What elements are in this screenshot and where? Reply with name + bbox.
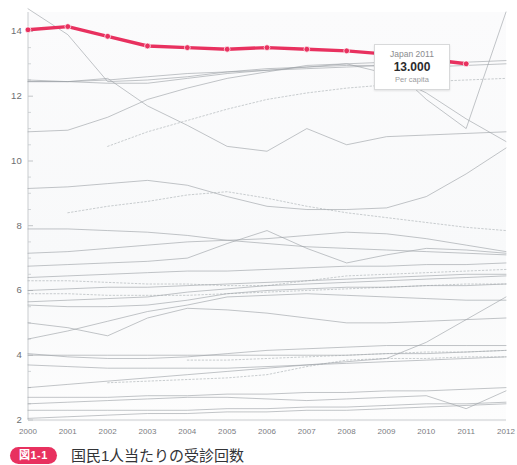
x-tick-label: 2005 <box>212 427 242 436</box>
japan-data-point[interactable] <box>463 61 469 67</box>
series-line <box>108 357 506 383</box>
series-line <box>28 402 506 410</box>
x-tick-label: 2000 <box>13 427 43 436</box>
x-tick-label: 2008 <box>332 427 362 436</box>
series-line <box>28 391 506 409</box>
x-tick-label: 2010 <box>411 427 441 436</box>
series-line <box>28 294 506 339</box>
x-tick-label: 2007 <box>292 427 322 436</box>
japan-data-point[interactable] <box>65 24 71 30</box>
caption-text: 国民1人当たりの受診回数 <box>71 447 244 464</box>
tooltip-japan-2011[interactable]: Japan 2011 13.000 Per capita <box>374 44 450 90</box>
y-tick-label: 12 <box>2 90 22 101</box>
japan-data-point[interactable] <box>184 45 190 51</box>
figure-container: 2468101214 20002001200220032004200520062… <box>0 0 517 465</box>
y-tick-label: 14 <box>2 25 22 36</box>
tooltip-subtitle: Per capita <box>382 75 442 85</box>
japan-data-point[interactable] <box>264 45 270 51</box>
x-tick-label: 2006 <box>252 427 282 436</box>
series-line <box>28 350 506 355</box>
tooltip-value: 13.000 <box>382 60 442 75</box>
japan-data-point[interactable] <box>344 48 350 54</box>
caption-badge: 図1-1 <box>10 447 57 464</box>
series-line <box>28 231 506 267</box>
series-line <box>28 232 506 253</box>
y-tick-label: 8 <box>2 220 22 231</box>
series-line <box>28 297 506 388</box>
x-tick-label: 2002 <box>93 427 123 436</box>
y-tick-label: 10 <box>2 155 22 166</box>
series-line <box>28 346 506 359</box>
japan-data-point[interactable] <box>145 43 151 49</box>
series-line <box>28 276 506 302</box>
x-tick-label: 2001 <box>53 427 83 436</box>
tooltip-title: Japan 2011 <box>382 49 442 60</box>
series-line <box>28 269 506 285</box>
japan-data-point[interactable] <box>105 33 111 39</box>
x-tick-label: 2003 <box>133 427 163 436</box>
y-tick-label: 4 <box>2 349 22 360</box>
japan-data-point[interactable] <box>224 46 230 52</box>
series-line <box>28 148 506 210</box>
series-line <box>28 308 506 336</box>
x-tick-label: 2009 <box>372 427 402 436</box>
series-line <box>28 229 506 255</box>
figure-caption: 図1-1 国民1人当たりの受診回数 <box>0 446 517 465</box>
x-tick-label: 2012 <box>491 427 517 436</box>
japan-data-point[interactable] <box>25 27 31 33</box>
x-tick-label: 2011 <box>451 427 481 436</box>
y-tick-label: 2 <box>2 414 22 425</box>
japan-data-point[interactable] <box>304 46 310 52</box>
series-line <box>28 404 506 419</box>
series-line <box>68 192 506 231</box>
x-tick-label: 2004 <box>172 427 202 436</box>
series-line <box>28 388 506 398</box>
y-tick-label: 6 <box>2 284 22 295</box>
